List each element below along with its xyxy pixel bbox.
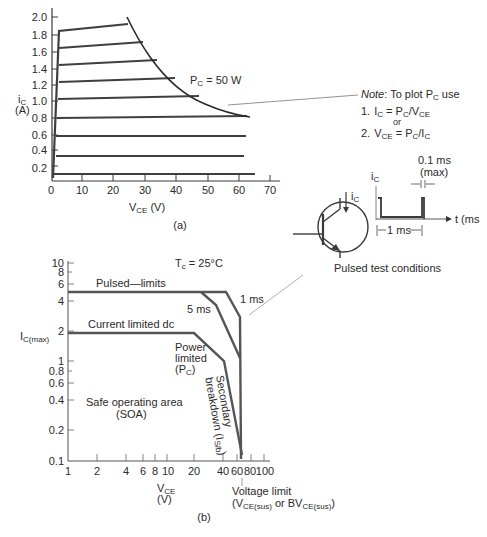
b-y-tick: 0.6 (49, 377, 64, 389)
note-or: or (393, 117, 401, 127)
a-y-tick: 0.4 (32, 144, 47, 156)
b-x-tick: 1 (65, 465, 71, 477)
b-y-tick: 0.1 (49, 455, 64, 467)
a-y-tick: 0.8 (32, 112, 47, 124)
b-secondary-breakdown-label: Secondary breakdown (IS/b) (201, 374, 239, 456)
transistor-ic-label: iC (351, 190, 359, 204)
a-y-unit: (A) (15, 104, 30, 116)
b-y-tick-labels: 10 8 6 4 2 1 0.8 0.6 0.4 0.2 0.1 (49, 257, 64, 467)
note-line-2: 2.VCE = PC/IC (361, 127, 430, 141)
b-temperature-label: Tc = 25°C (175, 257, 223, 271)
a-x-tick: 20 (107, 184, 119, 196)
b-y-tick: 2 (58, 325, 64, 337)
b-y-tick: 8 (58, 266, 64, 278)
note-box: Note: To plot PC use 1.IC = PC/VCE or 2.… (361, 88, 460, 141)
pulse-width-dimension (411, 180, 435, 188)
pulse-waveform: iC t (ms 0.1 ms (max) 1 ms (371, 154, 480, 236)
pulse-caption: Pulsed test conditions (334, 262, 442, 274)
a-x-tick: 10 (76, 184, 88, 196)
b-power-limited-label-3: (PC) (175, 363, 195, 377)
arrow-right-icon (446, 216, 452, 222)
a-y-tick: 2.0 (32, 11, 47, 23)
b-x-tick-labels: 1 2 4 6 8 10 20 40 60 80 100 (65, 465, 274, 477)
a-x-ticks (82, 175, 270, 181)
figure-b: 10 8 6 4 2 1 0.8 0.6 0.4 0.2 0.1 1 2 4 6… (20, 257, 335, 523)
b-x-tick: 2 (94, 465, 100, 477)
b-y-label: IC(max) (20, 330, 50, 344)
a-y-tick: 1.0 (32, 95, 47, 107)
b-x-tick: 40 (217, 465, 229, 477)
a-y-tick: 1.8 (32, 29, 47, 41)
b-pulsed-label: Pulsed—limits (96, 277, 166, 289)
b-caption: (b) (197, 511, 210, 523)
b-y-tick: 0.2 (49, 424, 64, 436)
pulse-trace (378, 198, 424, 219)
a-x-tick: 60 (233, 184, 245, 196)
b-curve-5ms (201, 292, 240, 358)
a-y-tick: 1.4 (32, 63, 47, 75)
pulse-t-label: t (ms (455, 213, 480, 225)
b-x-tick: 20 (188, 465, 200, 477)
b-x-unit: (V) (157, 493, 172, 505)
a-x-tick: 0 (48, 184, 54, 196)
b-voltage-limit-label: Voltage limit (232, 485, 291, 497)
a-x-tick: 40 (170, 184, 182, 196)
b-current-limited-label: Current limited dc (88, 318, 175, 330)
a-power-hyperbola (127, 17, 250, 117)
b-x-tick: 10 (162, 465, 174, 477)
b-x-tick: 4 (123, 465, 129, 477)
a-pc-label: PC = 50 W (190, 74, 242, 88)
b-soa-label-2: (SOA) (116, 408, 147, 420)
a-y-tick: 0.6 (32, 129, 47, 141)
figure-a: 2.0 1.8 1.6 1.4 1.2 1.0 0.8 0.6 0.4 0.2 … (15, 8, 358, 231)
npn-transistor-icon: iC (293, 190, 368, 258)
b-soa-label: Safe operating area (86, 396, 184, 408)
pulse-period-label: 1 ms (387, 224, 411, 236)
b-voltage-limit-label-2: (VCE(sus) or BVCE(sus)) (232, 497, 335, 511)
b-y-tick: 6 (58, 278, 64, 290)
a-x-tick: 50 (202, 184, 214, 196)
b-y-tick: 0.4 (49, 394, 64, 406)
a-y-tick: 1.2 (32, 79, 47, 91)
pulse-ic-label: iC (371, 170, 379, 184)
diagram-canvas: 2.0 1.8 1.6 1.4 1.2 1.0 0.8 0.6 0.4 0.2 … (0, 0, 487, 537)
a-y-tick: 0.2 (32, 162, 47, 174)
b-x-ticks (97, 454, 264, 461)
b-1ms-label: 1 ms (240, 293, 264, 305)
b-y-ticks (68, 263, 74, 430)
a-x-tick: 70 (264, 184, 276, 196)
a-x-tick-labels: 0 10 20 30 40 50 60 70 (48, 184, 276, 196)
note-leader-line (228, 95, 358, 105)
pulse-width-max: (max) (420, 166, 448, 178)
b-x-tick: 100 (256, 465, 274, 477)
a-characteristic-curves (53, 24, 255, 178)
b-5ms-label: 5 ms (187, 303, 211, 315)
a-caption: (a) (173, 219, 186, 231)
b-x-tick: 6 (140, 465, 146, 477)
b-y-tick: 0.8 (49, 365, 64, 377)
a-x-label: VCE(V) (129, 201, 165, 215)
b-x-tick: 60 (231, 465, 243, 477)
note-title: Note: To plot PC use (361, 88, 460, 102)
a-y-tick: 1.6 (32, 46, 47, 58)
b-y-tick: 4 (58, 295, 64, 307)
b-x-tick: 8 (152, 465, 158, 477)
a-x-tick: 30 (139, 184, 151, 196)
b-x-tick: 80 (244, 465, 256, 477)
a-y-tick-labels: 2.0 1.8 1.6 1.4 1.2 1.0 0.8 0.6 0.4 0.2 (32, 11, 47, 174)
pulse-width-label: 0.1 ms (418, 154, 452, 166)
